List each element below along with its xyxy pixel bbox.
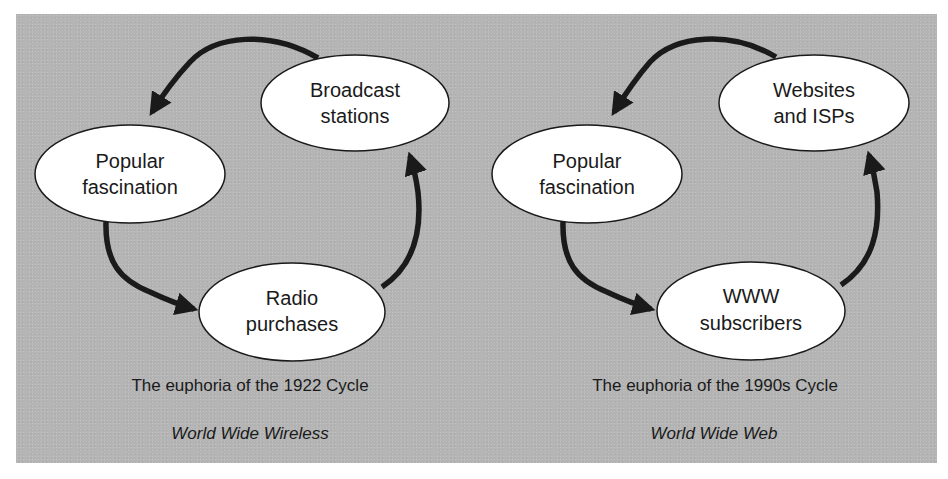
node-label: purchases — [246, 313, 338, 335]
cycle-1990s: Websites and ISPs Popular fascination WW… — [492, 39, 909, 360]
cycle-diagrams: Broadcast stations Popular fascination R… — [0, 0, 948, 479]
node-label: Popular — [553, 150, 622, 172]
arrow-subscribers-to-websites — [841, 155, 878, 285]
cycle-1922: Broadcast stations Popular fascination R… — [35, 39, 449, 361]
node-label: Websites — [773, 79, 855, 101]
arrow-radio-to-broadcast — [382, 156, 419, 287]
arrow-fascination-to-subscribers — [563, 222, 651, 309]
node-popular-fascination: Popular fascination — [35, 125, 225, 223]
node-label: fascination — [82, 176, 178, 198]
node-label: stations — [321, 105, 390, 127]
node-label: Broadcast — [310, 79, 400, 101]
node-www-subscribers: WWW subscribers — [657, 262, 845, 360]
node-websites-and-isps: Websites and ISPs — [719, 55, 909, 151]
node-label: fascination — [539, 176, 635, 198]
node-popular-fascination: Popular fascination — [492, 125, 682, 223]
subtitle-world-wide-web: World Wide Web — [650, 424, 777, 444]
subtitle-world-wide-wireless: World Wide Wireless — [171, 424, 328, 444]
node-radio-purchases: Radio purchases — [199, 263, 385, 361]
node-label: Radio — [266, 287, 318, 309]
node-label: and ISPs — [773, 105, 854, 127]
caption-1990s-cycle: The euphoria of the 1990s Cycle — [592, 376, 838, 396]
node-label: WWW — [723, 285, 780, 307]
node-label: Popular — [96, 150, 165, 172]
arrow-fascination-to-radio — [106, 222, 194, 309]
caption-1922-cycle: The euphoria of the 1922 Cycle — [131, 376, 368, 396]
node-broadcast-stations: Broadcast stations — [261, 55, 449, 151]
node-label: subscribers — [700, 312, 802, 334]
